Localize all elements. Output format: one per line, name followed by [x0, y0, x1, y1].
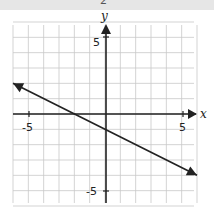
y-tick-neg5: -5	[86, 185, 97, 198]
y-axis-label: y	[100, 9, 108, 23]
y-axis-arrow-icon	[101, 24, 111, 34]
x-tick-neg5: -5	[22, 121, 33, 134]
coordinate-plane: y x -5 5 5 -5	[0, 0, 214, 216]
x-tick-5: 5	[179, 121, 186, 134]
x-axis-label: x	[200, 107, 207, 121]
x-axis-arrow-icon	[188, 109, 197, 119]
y-tick-5: 5	[93, 36, 100, 49]
